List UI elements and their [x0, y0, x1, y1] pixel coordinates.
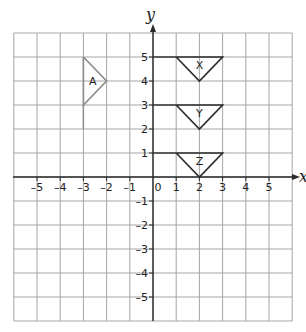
shape-label-a: A [89, 75, 97, 88]
shape-label-z: Z [196, 155, 204, 168]
x-tick-label: –1 [124, 181, 137, 194]
x-axis-label: x [299, 167, 306, 186]
x-tick-label: 3 [219, 181, 226, 194]
y-tick-label: 1 [141, 147, 148, 160]
y-axis-label: y [145, 5, 156, 24]
x-tick-label: –3 [77, 181, 90, 194]
y-axis-arrow-icon [150, 24, 156, 32]
coordinate-grid-diagram: x y –5–4–3–2–101234554321–1–2–3–4–5 AXYZ [0, 0, 306, 332]
y-tick-label: 2 [141, 123, 148, 136]
leader-lines [153, 57, 176, 153]
triangle-a: A [83, 57, 106, 129]
x-tick-label: –2 [100, 181, 113, 194]
y-tick-label: 3 [141, 99, 148, 112]
shape-label-y: Y [195, 107, 203, 120]
y-tick-label: –2 [136, 219, 149, 232]
y-tick-label: 5 [141, 51, 148, 64]
x-tick-label: 5 [266, 181, 273, 194]
y-tick-label: –1 [136, 195, 149, 208]
shape-label-x: X [196, 59, 204, 72]
y-tick-label: –4 [136, 267, 149, 280]
y-tick-label: 4 [141, 75, 148, 88]
y-tick-label: –5 [136, 291, 149, 304]
x-tick-label: –5 [31, 181, 44, 194]
y-tick-label: –3 [136, 243, 149, 256]
x-tick-label: 0 [155, 181, 162, 194]
x-tick-label: 2 [196, 181, 203, 194]
x-tick-label: –4 [54, 181, 67, 194]
x-tick-label: 1 [173, 181, 180, 194]
x-tick-label: 4 [242, 181, 249, 194]
axes: x y [13, 5, 306, 321]
